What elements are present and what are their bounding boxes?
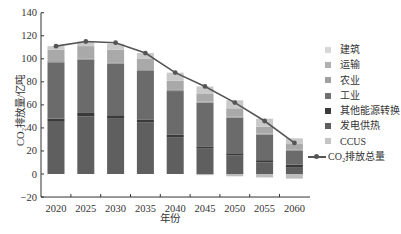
- bar-segment: [226, 174, 243, 176]
- bar-segment: [256, 134, 273, 135]
- bar-segment: [197, 101, 214, 102]
- bar-segment: [137, 69, 154, 70]
- bar-segment: [167, 91, 184, 135]
- bar-segment: [77, 59, 94, 60]
- legend-item-total-line: CO₂排放总量: [308, 149, 400, 164]
- x-tick-label: 2050: [224, 203, 245, 214]
- bar-segment: [226, 153, 243, 155]
- bar-segment: [107, 63, 124, 115]
- bar-segment: [286, 165, 303, 167]
- x-tick-label: 2045: [195, 203, 216, 214]
- bars: [48, 42, 303, 179]
- bar-segment: [256, 135, 273, 160]
- legend-swatch: [325, 138, 331, 144]
- bar-segment: [137, 59, 154, 69]
- bar-segment: [167, 81, 184, 90]
- legend-swatch: [325, 108, 331, 114]
- bar-segment: [77, 116, 94, 174]
- legend-item-agriculture: 农业: [322, 73, 400, 88]
- line-point: [113, 40, 118, 45]
- bar-segment: [167, 137, 184, 174]
- bar-segment: [226, 156, 243, 174]
- bar-segment: [286, 151, 303, 165]
- bar-segment: [197, 149, 214, 174]
- y-tick-label: 100: [21, 53, 37, 64]
- bar-segment: [48, 62, 65, 118]
- bar-segment: [286, 150, 303, 151]
- bar-segment: [48, 119, 65, 121]
- bar-segment: [256, 174, 273, 177]
- legend-item-transport: 运输: [322, 57, 400, 72]
- bar-segment: [286, 167, 303, 174]
- x-tick-label: 2030: [105, 203, 126, 214]
- bar-segment: [137, 70, 154, 120]
- x-tick-label: 2055: [254, 203, 275, 214]
- line-point: [232, 100, 237, 105]
- bar-segment: [48, 121, 65, 174]
- bar-segment: [197, 174, 214, 175]
- y-tick-label: 20: [27, 145, 38, 156]
- x-axis-label: 年份: [160, 210, 180, 225]
- bar-segment: [137, 122, 154, 174]
- legend-item-industry: 工业: [322, 88, 400, 103]
- bar-segment: [137, 120, 154, 122]
- line-point: [54, 44, 59, 49]
- line-marker-icon: [308, 153, 326, 161]
- line-point: [262, 119, 267, 124]
- bar-segment: [256, 127, 273, 134]
- bar-segment: [226, 118, 243, 154]
- bar-segment: [107, 115, 124, 118]
- bar-segment: [77, 113, 94, 116]
- bar-segment: [286, 174, 303, 179]
- x-tick-label: 2025: [75, 203, 96, 214]
- bar-segment: [256, 160, 273, 162]
- bar-segment: [226, 116, 243, 117]
- legend-item-other-energy-conversion: 其他能源转换: [322, 103, 400, 118]
- bar-segment: [107, 50, 124, 63]
- x-tick-label: 2060: [284, 203, 305, 214]
- legend-item-ccus: CCUS: [322, 134, 400, 149]
- bar-segment: [197, 103, 214, 147]
- bar-segment: [197, 93, 214, 101]
- y-tick-label: 140: [21, 7, 37, 18]
- bar-segment: [77, 46, 94, 59]
- y-tick-label: 120: [21, 30, 37, 41]
- legend-swatch: [325, 77, 331, 83]
- bar-segment: [167, 90, 184, 91]
- legend: 建筑 运输 农业 工业 其他能源转换 发电供热 CCUS CO₂排放总量: [322, 42, 400, 164]
- bar-segment: [48, 61, 65, 62]
- legend-swatch: [325, 123, 331, 129]
- bar-segment: [197, 146, 214, 148]
- y-tick-label: 0: [32, 169, 37, 180]
- y-tick-label: 40: [27, 122, 38, 133]
- legend-item-power-heat: 发电供热: [322, 118, 400, 133]
- bar-segment: [167, 135, 184, 137]
- bar-segment: [226, 108, 243, 116]
- line-point: [292, 140, 297, 145]
- y-axis-label: CO₂排放量/亿吨: [12, 66, 27, 156]
- line-point: [173, 70, 178, 75]
- legend-swatch: [325, 47, 331, 53]
- bar-segment: [107, 119, 124, 174]
- y-tick-label: 60: [27, 99, 38, 110]
- bar-segment: [77, 60, 94, 113]
- y-tick-label: −20: [21, 192, 37, 203]
- x-tick-label: 2020: [46, 203, 67, 214]
- legend-item-buildings: 建筑: [322, 42, 400, 57]
- x-tick-label: 2035: [135, 203, 156, 214]
- bar-segment: [256, 162, 273, 174]
- bar-segment: [107, 62, 124, 63]
- legend-swatch: [325, 62, 331, 68]
- line-point: [203, 84, 208, 89]
- bar-segment: [48, 50, 65, 62]
- legend-swatch: [325, 93, 331, 99]
- line-point: [143, 51, 148, 56]
- y-tick-label: 80: [27, 76, 38, 87]
- line-point: [83, 39, 88, 44]
